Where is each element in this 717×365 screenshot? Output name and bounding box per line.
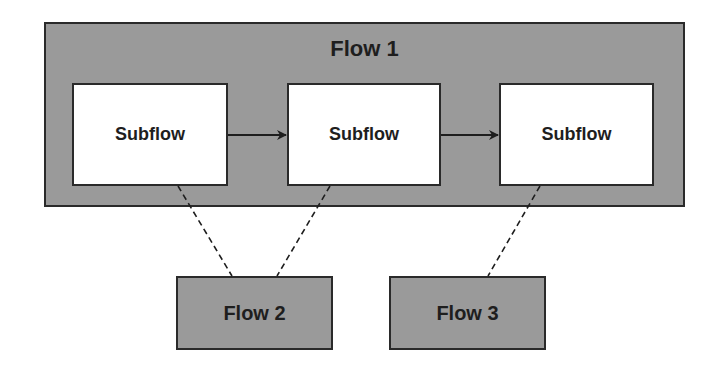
subflow-1-label: Subflow (115, 124, 185, 145)
flow-2-box: Flow 2 (176, 276, 333, 350)
subflow-1: Subflow (72, 83, 228, 186)
flow-3-box: Flow 3 (389, 276, 546, 350)
subflow-2-label: Subflow (329, 124, 399, 145)
subflow-3-label: Subflow (542, 124, 612, 145)
subflow-3: Subflow (499, 83, 654, 186)
flow-3-label: Flow 3 (436, 302, 498, 325)
subflow-2: Subflow (287, 83, 441, 186)
flow-1-title: Flow 1 (46, 36, 683, 62)
flow-2-label: Flow 2 (223, 302, 285, 325)
